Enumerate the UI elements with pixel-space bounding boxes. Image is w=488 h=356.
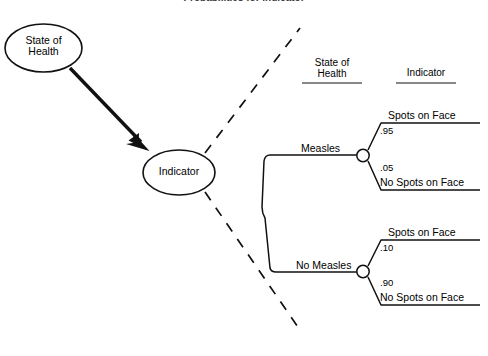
dashed-line-upper [205,28,300,153]
prob-label-measles-no-spots: .05 [380,163,393,173]
prob-label-measles-spots: .95 [380,126,393,136]
no-measles-chance-node [357,265,369,277]
branch-label-no-measles: No Measles [296,260,351,271]
state-of-health-node-label: State of Health [6,35,81,58]
column-header-indicator: Indicator [396,68,456,79]
column-header-state-of-health-line2: Health [302,69,362,80]
expansion-dashed-lines [205,28,300,330]
outcome-label-no-measles-spots: Spots on Face [388,227,456,238]
outcome-label-no-measles-no-spots: No Spots on Face [380,292,464,303]
influence-arrow [70,68,150,151]
indicator-node-label: Indicator [144,166,214,177]
branch-label-measles: Measles [301,143,340,154]
prob-label-no-measles-no-spots: .90 [380,278,393,288]
outcome-label-measles-no-spots: No Spots on Face [380,177,464,188]
tree-trunk [262,155,299,272]
tree-lines [262,123,480,305]
measles-chance-node [357,149,369,161]
dashed-line-lower [205,192,300,330]
column-header-state-of-health: State of Health [302,58,362,80]
page-title: Probabilities for Indicator [0,0,488,4]
prob-label-no-measles-spots: .10 [380,243,393,253]
state-of-health-node-line2: Health [6,46,81,57]
outcome-label-measles-spots: Spots on Face [388,110,456,121]
